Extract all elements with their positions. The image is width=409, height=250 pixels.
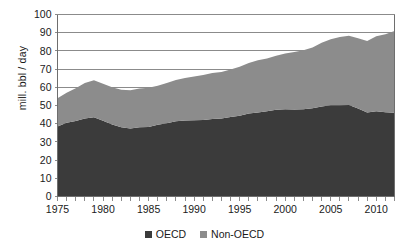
y-tick-label: 20 <box>40 154 52 166</box>
x-tick-label: 1985 <box>137 203 161 215</box>
y-tick-label: 50 <box>40 99 52 111</box>
y-tick-label: 80 <box>40 45 52 57</box>
y-tick-label: 40 <box>40 117 52 129</box>
legend-item-non-oecd[interactable]: Non-OECD <box>200 228 264 240</box>
x-tick-label: 1980 <box>91 203 115 215</box>
legend-swatch-icon <box>145 231 152 238</box>
x-tick-label: 2005 <box>319 203 343 215</box>
x-tick-label: 1975 <box>46 203 70 215</box>
legend-label: OECD <box>156 228 186 240</box>
legend-item-oecd[interactable]: OECD <box>145 228 186 240</box>
x-tick-label: 2000 <box>274 203 298 215</box>
x-axis-ticks <box>58 197 395 201</box>
y-tick-label: 90 <box>40 26 52 38</box>
stacked-area-chart: mill. bbl / day 0102030405060708090100 1… <box>0 0 409 250</box>
legend-label: Non-OECD <box>211 228 264 240</box>
x-axis-tick-labels: 19751980198519901995200020052010 <box>46 203 388 215</box>
x-tick-label: 1990 <box>182 203 206 215</box>
legend-swatch-icon <box>200 231 207 238</box>
y-tick-label: 60 <box>40 81 52 93</box>
x-tick-label: 1995 <box>228 203 252 215</box>
y-axis-tick-labels: 0102030405060708090100 <box>34 8 52 202</box>
chart-plot-area: 0102030405060708090100 19751980198519901… <box>0 0 409 250</box>
y-tick-label: 100 <box>34 8 52 20</box>
y-tick-label: 70 <box>40 63 52 75</box>
x-tick-label: 2010 <box>365 203 389 215</box>
y-tick-label: 10 <box>40 172 52 184</box>
area-series <box>58 31 395 197</box>
y-tick-label: 0 <box>46 190 52 202</box>
chart-legend: OECDNon-OECD <box>0 228 409 240</box>
y-tick-label: 30 <box>40 136 52 148</box>
